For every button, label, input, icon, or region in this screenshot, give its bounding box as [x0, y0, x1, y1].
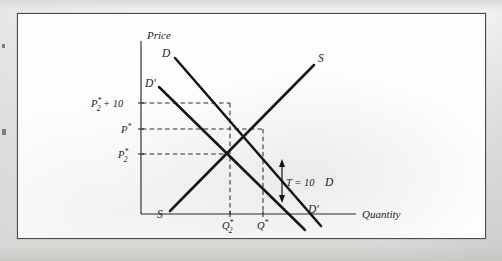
supply-curve[interactable] [170, 65, 314, 211]
demand-curve-label-bottom: D [324, 176, 334, 188]
figure-frame: Price Quantity P*2 + 10 P* P*2 [17, 13, 486, 239]
y-tick-label-p2-plus-10: P*2 + 10 [90, 96, 124, 113]
svg-text:Q*: Q* [257, 218, 269, 231]
y-axis-title: Price [146, 29, 171, 41]
supply-curve-label-bottom: S [157, 208, 163, 220]
svg-text:P*2: P*2 [117, 147, 128, 164]
supply-demand-chart: Price Quantity P*2 + 10 P* P*2 [18, 14, 484, 237]
demand-shifted-curve-label-bottom: D' [307, 203, 319, 215]
svg-text:Q*2: Q*2 [222, 218, 234, 235]
svg-text:P*2 + 10: P*2 + 10 [90, 96, 124, 113]
curves-group [159, 58, 321, 230]
tax-arrow-group [279, 159, 285, 203]
y-tick-p2-plus-10-suffix: + 10 [100, 98, 124, 109]
tax-annotation-label: T = 10 [286, 177, 315, 188]
demand-shifted-curve[interactable] [159, 87, 305, 230]
tax-arrow-head-up [279, 159, 285, 167]
demand-shifted-curve-label-top: D' [144, 77, 156, 89]
tax-arrow-head-down [279, 195, 285, 203]
scan-artifact-mid-left [2, 129, 6, 135]
supply-curve-label-top: S [318, 52, 324, 64]
x-tick-q-star-sup: * [265, 218, 269, 227]
x-axis-title: Quantity [362, 208, 401, 220]
x-tick-label-q-star: Q* [257, 218, 269, 231]
scan-artifact-top-left [2, 44, 5, 48]
page-edge-shadow-top [0, 0, 502, 11]
demand-curve-label-top: D [161, 47, 171, 59]
y-tick-p-star-sup: * [127, 122, 131, 131]
scanned-page: Price Quantity P*2 + 10 P* P*2 [0, 0, 502, 261]
y-tick-label-p2-star: P*2 [117, 147, 128, 164]
x-tick-q2-star-sub: 2 [229, 226, 233, 235]
guide-lines-group [142, 103, 263, 214]
y-tick-label-p-star: P* [120, 122, 131, 135]
svg-text:P*: P* [120, 122, 131, 135]
y-tick-p2-star-sub: 2 [124, 155, 128, 164]
page-edge-shadow-bottom [0, 245, 502, 261]
axes-group [141, 41, 356, 214]
demand-curve[interactable] [175, 58, 321, 226]
tick-marks-group [138, 103, 263, 217]
x-tick-label-q2-star: Q*2 [222, 218, 234, 235]
